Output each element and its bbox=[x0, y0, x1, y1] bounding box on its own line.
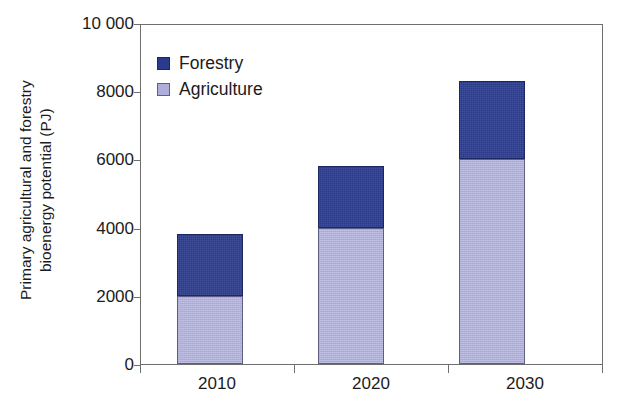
bar-segment-agriculture[interactable] bbox=[318, 228, 384, 364]
x-tick-mark bbox=[140, 365, 141, 373]
y-tick-label: 4000 bbox=[58, 219, 134, 239]
forestry-swatch-icon bbox=[157, 57, 170, 70]
legend-item-forestry[interactable]: Forestry bbox=[157, 52, 263, 74]
x-tick-mark bbox=[448, 365, 449, 373]
x-tick-mark bbox=[602, 365, 603, 373]
y-tick-label: 10 000 bbox=[58, 14, 134, 34]
bar-segment-forestry[interactable] bbox=[177, 234, 243, 295]
bar-2020[interactable] bbox=[318, 166, 384, 364]
legend-item-agriculture[interactable]: Agriculture bbox=[157, 78, 263, 100]
bar-segment-forestry[interactable] bbox=[459, 81, 525, 159]
x-tick-label-2020: 2020 bbox=[352, 374, 390, 394]
y-axis-title-line-2: bioenergy potential (PJ) bbox=[36, 80, 56, 300]
y-tick-label: 2000 bbox=[58, 287, 134, 307]
bar-segment-forestry[interactable] bbox=[318, 166, 384, 227]
bar-2030[interactable] bbox=[459, 81, 525, 364]
legend-label-agriculture: Agriculture bbox=[179, 79, 263, 100]
x-tick-mark bbox=[294, 365, 295, 373]
x-tick-label-2010: 2010 bbox=[198, 374, 236, 394]
legend-label-forestry: Forestry bbox=[179, 53, 243, 74]
bar-2010[interactable] bbox=[177, 234, 243, 364]
chart-legend: Forestry Agriculture bbox=[157, 52, 263, 100]
y-tick-label: 0 bbox=[58, 355, 134, 375]
y-axis-title-line-1: Primary agricultural and forestry bbox=[16, 80, 36, 300]
bar-chart-figure: Primary agricultural and forestry bioene… bbox=[0, 0, 620, 413]
agriculture-swatch-icon bbox=[157, 83, 170, 96]
x-tick-label-2030: 2030 bbox=[506, 374, 544, 394]
y-axis-tick-labels: 10 000 8000 6000 4000 2000 0 bbox=[58, 0, 134, 413]
y-tick-label: 8000 bbox=[58, 82, 134, 102]
bar-segment-agriculture[interactable] bbox=[459, 159, 525, 364]
y-tick-label: 6000 bbox=[58, 150, 134, 170]
bar-segment-agriculture[interactable] bbox=[177, 296, 243, 364]
